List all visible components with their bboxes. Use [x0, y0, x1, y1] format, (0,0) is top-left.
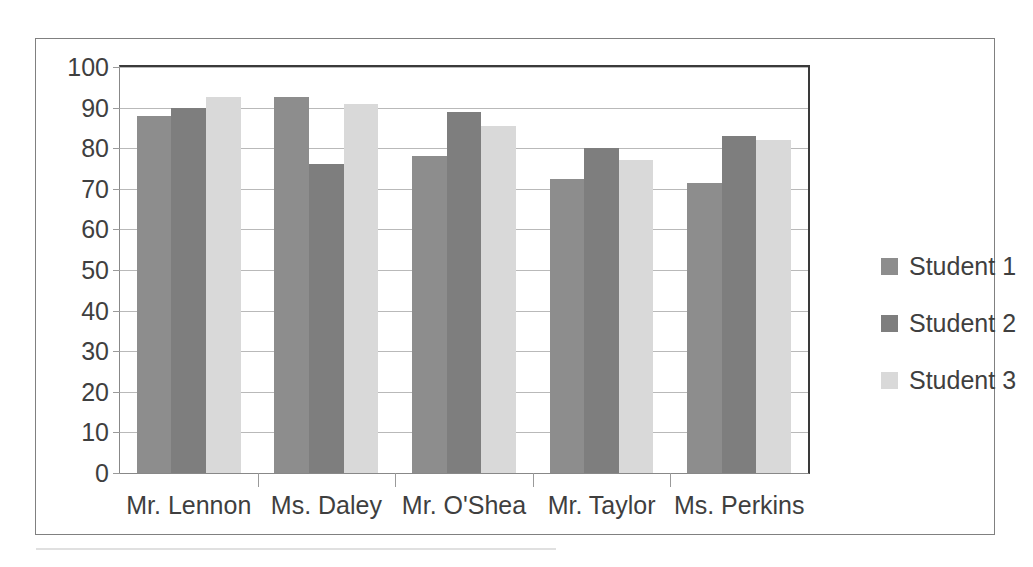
bar[interactable] [722, 136, 757, 473]
legend-item[interactable]: Student 1 [881, 254, 1016, 279]
y-axis-tick-label: 30 [81, 339, 109, 364]
x-axis-tick [670, 473, 671, 487]
bar[interactable] [171, 108, 206, 473]
bar[interactable] [274, 97, 309, 473]
bar-group [274, 67, 378, 473]
y-axis-tick [113, 67, 120, 68]
y-axis-tick-label: 70 [81, 176, 109, 201]
bar[interactable] [687, 183, 722, 473]
x-axis-category-label: Ms. Daley [271, 493, 382, 518]
legend-item[interactable]: Student 2 [881, 311, 1016, 336]
bar-group [550, 67, 654, 473]
y-axis-tick [113, 473, 120, 474]
scan-artifact [36, 548, 556, 550]
y-axis-tick-label: 60 [81, 217, 109, 242]
x-axis-category-label: Mr. Lennon [126, 493, 251, 518]
y-axis-tick [113, 108, 120, 109]
y-axis-tick-label: 20 [81, 379, 109, 404]
bar-group [137, 67, 241, 473]
y-axis-tick [113, 392, 120, 393]
bar[interactable] [344, 104, 379, 473]
y-axis-tick-label: 100 [67, 55, 109, 80]
bar[interactable] [309, 164, 344, 473]
y-axis-tick [113, 229, 120, 230]
legend-swatch-icon [881, 258, 898, 275]
legend-swatch-icon [881, 372, 898, 389]
y-axis-tick-label: 50 [81, 258, 109, 283]
legend-item-label: Student 1 [909, 254, 1016, 279]
legend-swatch-icon [881, 315, 898, 332]
y-axis-tick-label: 90 [81, 95, 109, 120]
y-axis-tick [113, 270, 120, 271]
y-axis-tick [113, 148, 120, 149]
bar[interactable] [550, 179, 585, 473]
x-axis-category-label: Mr. O'Shea [402, 493, 526, 518]
bar[interactable] [206, 97, 241, 473]
bar[interactable] [412, 156, 447, 473]
y-axis-tick-label: 0 [95, 461, 109, 486]
y-axis-tick [113, 432, 120, 433]
bar[interactable] [584, 148, 619, 473]
y-axis-tick [113, 189, 120, 190]
x-axis-tick [395, 473, 396, 487]
chart-legend: Student 1Student 2Student 3 [881, 254, 1016, 393]
chart-figure: 1009080706050403020100 Mr. LennonMs. Dal… [35, 38, 995, 535]
x-axis-category-label: Mr. Taylor [548, 493, 656, 518]
y-axis-tick-label: 10 [81, 420, 109, 445]
plot-area: 1009080706050403020100 Mr. LennonMs. Dal… [119, 65, 810, 474]
bar-group [412, 67, 516, 473]
bars-layer [120, 67, 808, 473]
bar[interactable] [447, 112, 482, 473]
y-axis-tick [113, 311, 120, 312]
x-axis-category-label: Ms. Perkins [674, 493, 805, 518]
x-axis-tick [533, 473, 534, 487]
x-axis-tick [258, 473, 259, 487]
bar[interactable] [619, 160, 654, 473]
bar[interactable] [137, 116, 172, 473]
y-axis-tick-label: 40 [81, 298, 109, 323]
y-axis-tick [113, 351, 120, 352]
legend-item[interactable]: Student 3 [881, 368, 1016, 393]
legend-item-label: Student 2 [909, 311, 1016, 336]
bar[interactable] [756, 140, 791, 473]
legend-item-label: Student 3 [909, 368, 1016, 393]
y-axis-tick-label: 80 [81, 136, 109, 161]
bar[interactable] [481, 126, 516, 473]
bar-group [687, 67, 791, 473]
